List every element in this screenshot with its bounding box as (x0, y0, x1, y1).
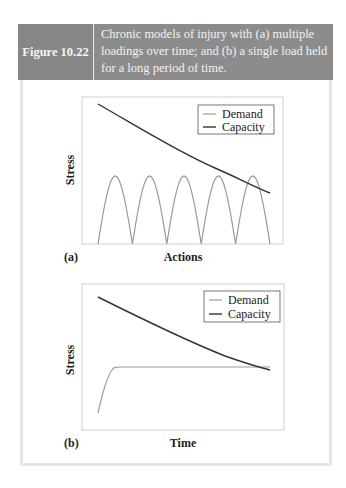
chart-a-xlabel: Actions (164, 250, 203, 264)
chart-b-demand-line (98, 367, 270, 413)
legend-capacity-label: Capacity (222, 120, 265, 134)
chart-b-xlabel: Time (170, 436, 197, 450)
chart-b-ylabel: Stress (63, 344, 77, 375)
chart-b-legend: Demand Capacity (204, 291, 280, 322)
chart-a-demand-line (98, 176, 270, 244)
legend-demand-label: Demand (222, 107, 263, 121)
chart-b-panel-label: (b) (64, 436, 79, 450)
legend-capacity-label: Capacity (228, 307, 271, 321)
legend-demand-label: Demand (228, 293, 269, 307)
chart-a: Demand Capacity Stress Actions (a) (63, 97, 283, 264)
chart-b: Demand Capacity Stress Time (b) (63, 284, 284, 450)
chart-a-ylabel: Stress (63, 154, 77, 185)
chart-a-panel-label: (a) (64, 250, 78, 264)
chart-a-legend: Demand Capacity (198, 105, 274, 134)
charts-canvas: Demand Capacity Stress Actions (a) Deman… (0, 0, 346, 488)
